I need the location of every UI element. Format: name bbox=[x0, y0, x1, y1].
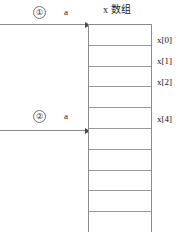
array-title-label: x 数组 bbox=[103, 3, 132, 16]
array-box bbox=[88, 24, 152, 232]
array-index-label: x[0] bbox=[157, 35, 172, 46]
array-cell bbox=[89, 46, 151, 67]
circled-number-marker: ① bbox=[33, 6, 46, 19]
array-cell bbox=[89, 129, 151, 150]
circled-number-marker: ② bbox=[33, 110, 46, 123]
array-cell bbox=[89, 67, 151, 88]
pointer-line bbox=[0, 130, 88, 131]
array-pointer-diagram: x 数组 ①a②a x[0]x[1]x[2]x[4] bbox=[0, 0, 190, 241]
pointer-variable-label: a bbox=[64, 110, 68, 123]
array-cell bbox=[89, 171, 151, 192]
array-cell bbox=[89, 191, 151, 212]
pointer-line bbox=[0, 24, 88, 25]
array-cell bbox=[89, 25, 151, 46]
array-index-label: x[1] bbox=[157, 56, 172, 67]
array-index-label: x[4] bbox=[157, 114, 172, 125]
array-cell bbox=[89, 150, 151, 171]
array-cell bbox=[89, 108, 151, 129]
array-index-label: x[2] bbox=[157, 77, 172, 88]
pointer-variable-label: a bbox=[64, 6, 68, 19]
array-cell bbox=[89, 87, 151, 108]
array-cell bbox=[89, 212, 151, 233]
